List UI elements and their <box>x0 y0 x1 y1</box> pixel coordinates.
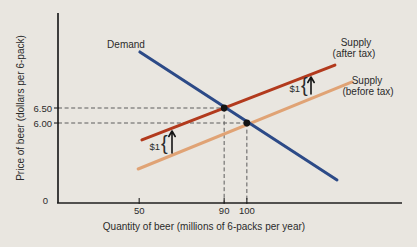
up-arrow-left-icon <box>169 131 175 153</box>
supply-before-tax-label-line2: (before tax) <box>342 86 393 97</box>
tax-shift-brace-left: { <box>161 132 168 154</box>
x-tick-label-50: 50 <box>134 205 145 216</box>
y-tick-label-600: 6.00 <box>34 118 53 129</box>
supply-before-tax-label-line1: Supply <box>352 75 383 86</box>
beer-tax-supply-demand-figure: 50 90 100 6.50 6.00 0 Demand Supply (aft… <box>0 0 417 247</box>
x-axis-title: Quantity of beer (millions of 6-packs pe… <box>103 221 305 232</box>
tax-shift-brace-right: { <box>301 74 308 96</box>
x-tick-label-100: 100 <box>239 205 255 216</box>
tax-shift-amount-right: $1 <box>289 83 300 94</box>
equilibrium-before-tax-point <box>243 120 250 127</box>
supply-after-tax-label-line2: (after tax) <box>333 48 376 59</box>
up-arrow-right-icon <box>308 77 314 94</box>
demand-label: Demand <box>107 39 145 50</box>
x-tick-label-90: 90 <box>219 205 230 216</box>
y-tick-label-650: 6.50 <box>34 103 53 114</box>
origin-label: 0 <box>43 195 48 206</box>
tax-shift-amount-left: $1 <box>149 141 160 152</box>
demand-line <box>140 52 337 180</box>
chart-svg: 50 90 100 6.50 6.00 0 Demand Supply (aft… <box>0 0 417 247</box>
equilibrium-after-tax-point <box>221 105 228 112</box>
y-axis-title: Price of beer (dollars per 6-pack) <box>15 35 26 181</box>
supply-after-tax-label-line1: Supply <box>341 37 372 48</box>
